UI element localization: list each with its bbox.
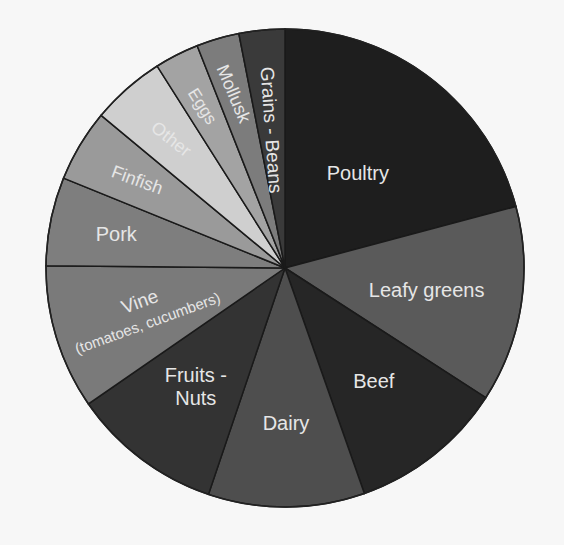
slice-label: Beef [353, 370, 395, 392]
slice-label: Leafy greens [369, 279, 485, 301]
slice-label: Dairy [263, 412, 310, 434]
pie-slices [46, 29, 524, 507]
pie-chart: PoultryLeafy greensBeefDairyFruits -Nuts… [0, 0, 564, 545]
slice-label: Poultry [327, 162, 389, 184]
slice-label: Pork [96, 223, 138, 245]
